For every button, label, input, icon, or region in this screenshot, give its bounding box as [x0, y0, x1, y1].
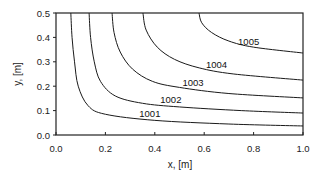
contour-label-1001: 1001 [139, 108, 160, 119]
contour-label-1002: 1002 [160, 94, 181, 105]
y-tick-label: 0.4 [37, 32, 50, 43]
y-tick-label: 0.3 [37, 56, 50, 67]
x-axis-title: x, [m] [168, 159, 193, 170]
x-tick-label: 0.6 [198, 143, 211, 154]
contour-line-1004 [143, 13, 303, 80]
contour-chart: 10011002100310041005 0.00.20.40.60.81.0 … [0, 0, 324, 183]
y-tick-label: 0.0 [37, 130, 50, 141]
contour-line-1002 [89, 13, 303, 113]
y-axis-title: y, [m] [12, 62, 23, 86]
x-tick-label: 0.4 [148, 143, 161, 154]
plot-frame [56, 13, 303, 135]
contour-label-1003: 1003 [183, 77, 204, 88]
x-tick-label: 1.0 [296, 143, 309, 154]
x-tick-label: 0.0 [49, 143, 62, 154]
y-tick-label: 0.5 [37, 8, 50, 19]
y-tick-label: 0.2 [37, 81, 50, 92]
contour-label-1004: 1004 [206, 59, 227, 70]
y-tick-label: 0.1 [37, 105, 50, 116]
y-axis-ticks: 0.00.10.20.30.40.5 [37, 8, 56, 141]
contour-labels: 10011002100310041005 [139, 36, 259, 119]
contour-lines [71, 13, 303, 126]
x-tick-label: 0.8 [247, 143, 260, 154]
contour-line-1005 [199, 13, 303, 53]
contour-line-1001 [71, 13, 303, 126]
contour-label-1005: 1005 [238, 36, 259, 47]
contour-line-1003 [112, 13, 303, 98]
x-tick-label: 0.2 [99, 143, 112, 154]
